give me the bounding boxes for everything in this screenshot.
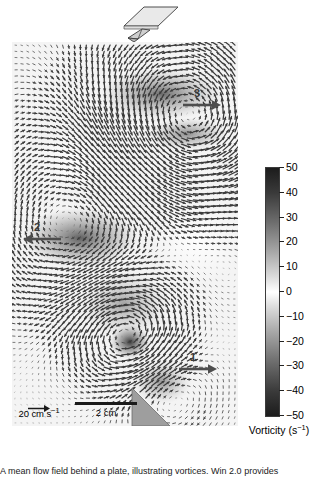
annotation-2-arrow-icon — [22, 233, 62, 245]
colorbar-tick — [279, 167, 284, 168]
colorbar-tick — [279, 192, 284, 193]
colorbar-tick — [279, 266, 284, 267]
colorbar-tick-label: −50 — [286, 410, 304, 421]
colorbar-tick-label: −20 — [286, 335, 304, 346]
annotation-1-arrow-icon — [178, 363, 218, 375]
colorbar-tick — [279, 390, 284, 391]
colorbar-tick-label: 20 — [286, 236, 298, 247]
annotation-1: 1 — [178, 352, 218, 375]
colorbar-tick-label: 40 — [286, 187, 298, 198]
colorbar-tick-label: −30 — [286, 360, 304, 371]
colorbar-tick — [279, 217, 284, 218]
velocity-scale-label: 20 cm s−1 — [8, 408, 70, 419]
colorbar-tick — [279, 291, 284, 292]
spatial-scale-bar: 2 cm — [75, 402, 137, 418]
colorbar-tick — [279, 241, 284, 242]
scale-bar-line — [75, 402, 137, 405]
colorbar-tick-label: −10 — [286, 311, 304, 322]
light-sheet-schematic — [100, 4, 182, 44]
colorbar-tick — [279, 341, 284, 342]
annotation-1-label: 1 — [190, 352, 218, 363]
annotation-2-label: 2 — [34, 222, 62, 233]
colorbar-tick-label: −40 — [286, 385, 304, 396]
velocity-reference-vector: 20 cm s−1 — [8, 399, 70, 419]
annotation-3-label: 3 — [194, 88, 222, 99]
light-sheet-icon — [100, 4, 182, 44]
scale-bar-label: 2 cm — [75, 407, 137, 418]
figure-root: 3 2 1 20 cm s−1 2 cm — [0, 0, 318, 477]
annotation-3-arrow-icon — [182, 99, 222, 111]
colorbar-title: Vorticity (s−1) — [240, 424, 318, 436]
colorbar-tick — [279, 316, 284, 317]
colorbar-tick — [279, 365, 284, 366]
colorbar-tick — [279, 415, 284, 416]
colorbar-tick-label: 0 — [286, 286, 292, 297]
annotation-3: 3 — [182, 88, 222, 111]
figure-caption: A mean flow field behind a plate, illust… — [0, 466, 318, 477]
colorbar-tick-label: 50 — [286, 162, 298, 173]
annotation-2: 2 — [22, 222, 62, 245]
colorbar-tick-label: 10 — [286, 261, 298, 272]
vorticity-colorbar: 50403020100−10−20−30−40−50 — [265, 167, 280, 417]
colorbar-gradient — [265, 167, 280, 417]
velocity-arrow-icon — [8, 399, 70, 408]
colorbar-tick-label: 30 — [286, 211, 298, 222]
fish-body-icon — [128, 29, 150, 42]
